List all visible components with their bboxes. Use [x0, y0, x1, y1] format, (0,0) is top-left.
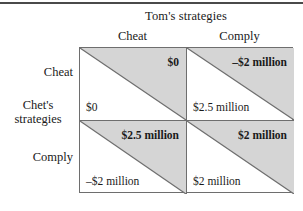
row-player-payoff: $2.5 million	[193, 101, 249, 113]
payoff-matrix: $0 $0 –$2 million $2.5 million $2.5 mill…	[79, 47, 293, 193]
column-header-cheat: Cheat	[79, 29, 186, 44]
row-player-group-title-line2: strategies	[0, 112, 76, 126]
row-header-cheat: Cheat	[0, 65, 73, 79]
payoff-cell-comply-cheat: $2.5 million –$2 million	[80, 121, 187, 194]
row-header-comply: Comply	[0, 150, 73, 164]
column-player-group-title: Tom's strategies	[79, 9, 293, 24]
row-player-payoff: $2 million	[193, 175, 241, 187]
column-header-comply: Comply	[186, 29, 293, 44]
column-player-payoff: $0	[168, 56, 180, 68]
row-player-payoff: $0	[86, 101, 98, 113]
payoff-cell-comply-comply: $2 million $2 million	[187, 121, 294, 194]
payoff-cell-cheat-cheat: $0 $0	[80, 48, 187, 121]
column-player-payoff: $2 million	[238, 129, 287, 141]
row-player-payoff: –$2 million	[86, 175, 139, 187]
row-player-group-title-line1: Chet's	[0, 98, 76, 112]
column-player-payoff: $2.5 million	[121, 129, 179, 141]
top-divider-rule	[0, 2, 303, 4]
payoff-cell-cheat-comply: –$2 million $2.5 million	[187, 48, 294, 121]
column-player-payoff: –$2 million	[232, 56, 287, 68]
row-player-group-title: Chet's strategies	[0, 98, 76, 126]
